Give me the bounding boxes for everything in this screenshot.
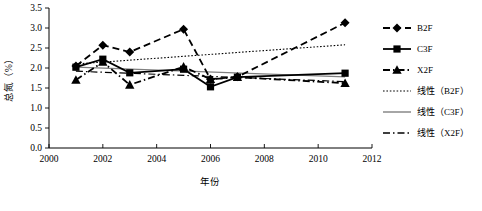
y-axis-title: 总氮（%） (3, 54, 14, 102)
legend-item-线性（C3F）[interactable]: 线性（C3F） (383, 106, 469, 117)
x-tick-label: 2010 (309, 154, 328, 164)
y-tick-label: 1.0 (30, 103, 42, 113)
x-tick-label: 2006 (201, 154, 220, 164)
x-axis-tick-labels: 2000200220042006200820102012 (40, 154, 382, 164)
legend-item-线性（X2F）[interactable]: 线性（X2F） (383, 127, 469, 138)
y-tick-label: 1.5 (30, 83, 42, 93)
y-tick-label: 2.0 (30, 63, 42, 73)
legend-item-X2F[interactable]: X2F (383, 65, 433, 75)
x-tick-label: 2002 (93, 154, 112, 164)
line-chart: 0.00.51.01.52.02.53.03.5 200020022004200… (0, 0, 482, 211)
x-tick-label: 2004 (147, 154, 166, 164)
y-axis-tick-labels: 0.00.51.01.52.02.53.03.5 (30, 3, 42, 153)
data-point-B2F-2003 (125, 48, 134, 57)
data-point-B2F-2005 (179, 25, 188, 34)
legend-item-C3F[interactable]: C3F (383, 44, 433, 54)
legend-label-X2F: X2F (417, 65, 433, 75)
legend-label-C3F: C3F (417, 44, 433, 54)
data-point-C3F-2003 (126, 69, 133, 76)
legend-label-线性（C3F）: 线性（C3F） (417, 106, 469, 117)
chart-container: 0.00.51.01.52.02.53.03.5 200020022004200… (0, 0, 482, 211)
y-tick-label: 3.0 (30, 23, 42, 33)
y-tick-label: 2.5 (30, 43, 42, 53)
legend-marker-B2F (393, 24, 402, 33)
x-axis-ticks (49, 144, 372, 148)
y-tick-label: 0.5 (30, 123, 42, 133)
x-axis-title: 年份 (200, 176, 220, 187)
y-tick-label: 3.5 (30, 3, 42, 13)
legend-item-线性（B2F）[interactable]: 线性（B2F） (383, 85, 469, 96)
x-tick-label: 2012 (363, 154, 382, 164)
data-point-C3F-2006 (207, 83, 214, 90)
legend-label-线性（B2F）: 线性（B2F） (417, 85, 469, 96)
data-point-C3F-2001 (72, 64, 79, 71)
data-point-C3F-2011 (341, 70, 348, 77)
legend-label-B2F: B2F (417, 23, 433, 33)
legend-item-B2F[interactable]: B2F (383, 23, 433, 33)
y-axis-ticks (45, 8, 49, 148)
data-point-X2F-2001 (71, 75, 80, 84)
legend-marker-C3F (393, 45, 400, 52)
chart-legend: B2FC3FX2F线性（B2F）线性（C3F）线性（X2F） (383, 23, 469, 138)
series-line-B2F (76, 23, 345, 79)
data-point-B2F-2002 (98, 41, 107, 50)
x-tick-label: 2008 (255, 154, 274, 164)
data-point-B2F-2011 (341, 18, 350, 27)
x-tick-label: 2000 (40, 154, 59, 164)
legend-label-线性（X2F）: 线性（X2F） (417, 127, 469, 138)
y-tick-label: 0.0 (30, 143, 42, 153)
